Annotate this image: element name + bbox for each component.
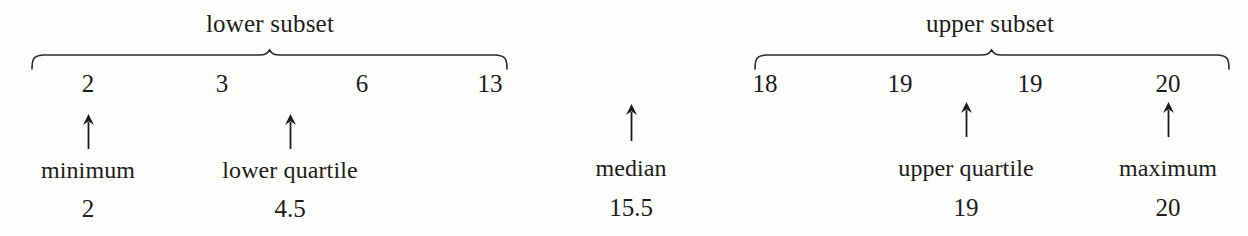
lower-quartile-arrow-icon — [284, 114, 297, 149]
figure-canvas: lower subset 2 3 6 13 upper subset 18 19… — [0, 0, 1248, 236]
maximum-label: maximum — [1119, 155, 1217, 181]
maximum-value: 20 — [1156, 194, 1181, 221]
lower-subset-brace — [31, 50, 508, 70]
upper-subset-title: upper subset — [926, 10, 1054, 37]
lower-quartile-label: lower quartile — [222, 157, 357, 183]
upper-quartile-value: 19 — [954, 194, 979, 221]
upper-quartile-label: upper quartile — [898, 155, 1033, 181]
maximum-arrow-icon — [1162, 102, 1175, 137]
lower-data-value: 2 — [82, 70, 95, 97]
upper-data-value: 19 — [888, 70, 913, 97]
median-label: median — [595, 155, 666, 181]
median-value: 15.5 — [609, 194, 653, 221]
minimum-label: minimum — [41, 157, 135, 183]
lower-data-value: 3 — [216, 70, 229, 97]
lower-data-value: 13 — [478, 70, 503, 97]
median-arrow-icon — [625, 104, 638, 141]
minimum-value: 2 — [82, 195, 95, 222]
upper-quartile-arrow-icon — [960, 102, 973, 137]
upper-data-value: 19 — [1018, 70, 1043, 97]
upper-data-value: 18 — [753, 70, 778, 97]
lower-quartile-value: 4.5 — [274, 195, 305, 222]
lower-subset-title: lower subset — [206, 10, 334, 37]
upper-subset-brace — [754, 50, 1230, 70]
upper-data-value: 20 — [1156, 70, 1181, 97]
lower-data-value: 6 — [356, 70, 369, 97]
minimum-arrow-icon — [82, 114, 95, 149]
